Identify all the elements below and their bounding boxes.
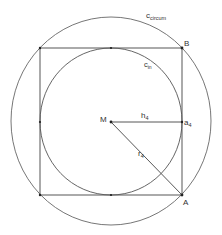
label-incircle: cin (144, 60, 152, 70)
label-A: A (183, 198, 189, 207)
label-side: a4 (184, 118, 192, 128)
point-bottom-left (39, 194, 41, 196)
label-inradius: h4 (141, 111, 149, 121)
point-top-mid (110, 47, 112, 49)
label-M: M (100, 115, 107, 124)
label-B: B (184, 39, 189, 48)
point-a4 (181, 121, 183, 123)
point-left-mid (39, 121, 41, 123)
label-circumradius: r4 (138, 149, 144, 159)
geometry-diagram: ccircum cin B A M h4 a4 r4 (0, 0, 222, 235)
point-B (181, 47, 184, 50)
point-top-left (39, 47, 41, 49)
circumradius-line (111, 122, 182, 195)
point-M (110, 121, 113, 124)
point-bottom-mid (110, 194, 112, 196)
point-A (181, 194, 184, 197)
label-circumcircle: ccircum (146, 11, 167, 21)
